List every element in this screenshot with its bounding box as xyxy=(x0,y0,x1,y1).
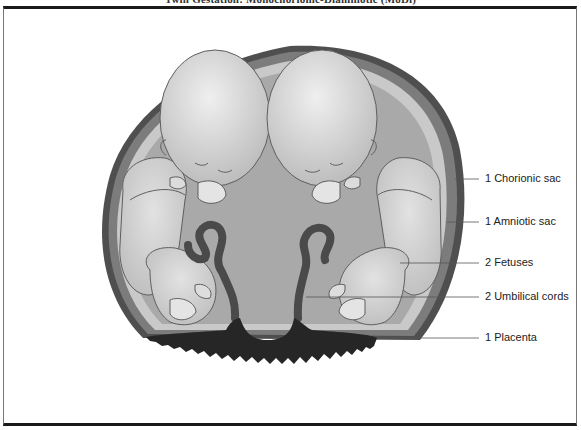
label-amniotic-sac: 1 Amniotic sac xyxy=(485,215,556,227)
label-chorionic-sac: 1 Chorionic sac xyxy=(485,172,561,184)
label-umbilical-cords: 2 Umbilical cords xyxy=(485,290,569,302)
label-placenta: 1 Placenta xyxy=(485,331,537,343)
label-fetuses: 2 Fetuses xyxy=(485,256,533,268)
